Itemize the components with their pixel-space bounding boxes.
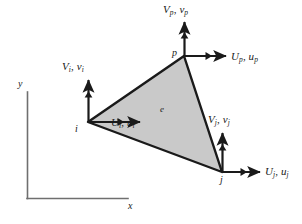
node-j-vertical-force-label: Vj, vj <box>208 114 230 127</box>
node-i-u-subscript: i <box>133 121 135 130</box>
node-i-v-subscript: i <box>82 65 84 74</box>
element-label: e <box>160 105 164 114</box>
y-axis-label: y <box>18 79 22 89</box>
node-p-v-subscript: p <box>184 8 188 17</box>
node-p-u-subscript: p <box>254 55 258 64</box>
node-p-vertical-force-arrow <box>181 22 189 56</box>
diagram-svg <box>0 0 302 224</box>
node-i-V-symbol: V <box>62 60 69 72</box>
node-j-horizontal-force-label: Uj, uj <box>265 166 289 179</box>
node-j-u-subscript: j <box>287 170 289 179</box>
triangular-element <box>88 56 222 172</box>
node-label-j: j <box>220 175 223 185</box>
node-j-v-subscript: j <box>228 118 230 127</box>
node-i-U-symbol: U <box>111 116 119 128</box>
node-i-vertical-force-arrow <box>85 80 93 122</box>
node-j-vertical-arrow-second-head <box>219 144 227 150</box>
node-i-vertical-arrow-second-head <box>85 91 93 97</box>
node-j-U-symbol: U <box>265 165 273 177</box>
node-j-horizontal-force-arrow <box>222 168 260 176</box>
node-p-horizontal-force-arrow <box>184 52 226 60</box>
node-p-vertical-force-label: Vp, vp <box>163 4 188 17</box>
node-p-horizontal-force-label: Up, up <box>231 51 258 64</box>
node-j-horizontal-arrow-second-head <box>241 168 248 176</box>
element-polygon <box>88 56 222 172</box>
node-p-V-symbol: V <box>163 3 170 15</box>
node-i-vertical-force-label: Vi, vi <box>62 61 84 74</box>
node-j-V-symbol: V <box>208 113 215 125</box>
node-label-i: i <box>75 124 78 134</box>
node-p-horizontal-arrow-second-head <box>206 52 213 60</box>
x-axis-label: x <box>128 201 132 211</box>
node-p-vertical-arrow-second-head <box>181 32 189 38</box>
node-i-horizontal-force-label: Ui, ui <box>111 117 135 130</box>
node-p-U-symbol: U <box>231 50 239 62</box>
figure-canvas: y x e i p j Vi, vi Ui, ui Vp, vp Up, up … <box>0 0 302 224</box>
node-label-p: p <box>172 48 177 58</box>
